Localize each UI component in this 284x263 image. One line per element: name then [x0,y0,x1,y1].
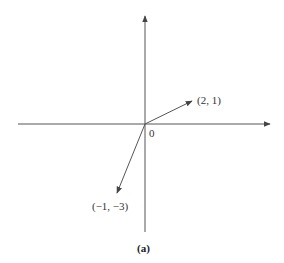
vector-2-1-label: (2, 1) [197,94,221,107]
vector-neg1-neg3-arrow [117,124,145,193]
vector-neg1-neg3-label: (−1, −3) [92,200,129,213]
vector-2-1-arrow [145,101,192,124]
origin-label: 0 [149,127,155,139]
figure-caption: (a) [137,242,150,255]
vector-diagram: 0 (2, 1) (−1, −3) (a) [0,0,284,263]
